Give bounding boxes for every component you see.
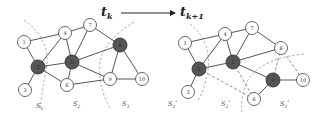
left-node-10: 10 — [136, 73, 149, 86]
svg-text:10: 10 — [300, 77, 306, 83]
time-label-tk1: tk+1 — [180, 4, 204, 21]
svg-text:9: 9 — [271, 77, 274, 83]
left-node-4: 4 — [59, 27, 72, 40]
set-label-s1: S1 — [36, 102, 43, 111]
svg-text:5: 5 — [70, 59, 73, 65]
svg-text:8: 8 — [118, 42, 121, 48]
right-node-10: 10 — [297, 74, 310, 87]
svg-text:1: 1 — [183, 40, 186, 46]
svg-text:6: 6 — [252, 96, 255, 102]
svg-text:7: 7 — [88, 22, 91, 28]
time-label-tk: tk — [101, 4, 113, 21]
right-node-5: 5 — [226, 55, 240, 69]
right-removed-edges — [199, 48, 303, 99]
set-label-s2-prime: S2' — [221, 99, 230, 109]
left-node-7: 7 — [84, 19, 97, 32]
svg-text:6: 6 — [65, 82, 68, 88]
left-node-2: 2 — [31, 60, 45, 74]
left-node-5: 5 — [65, 55, 79, 69]
svg-text:2: 2 — [36, 64, 39, 70]
left-node-1: 1 — [18, 36, 31, 49]
set-label-s3-prime: S3' — [280, 99, 289, 109]
right-node-8: 8 — [275, 42, 288, 55]
svg-text:8: 8 — [279, 45, 282, 51]
right-graph: 1 4 7 8 2 5 9 10 3 6 S1' S2' S3' — [168, 22, 310, 113]
right-node-4: 4 — [219, 28, 232, 41]
left-node-3: 3 — [19, 84, 32, 97]
svg-text:7: 7 — [250, 25, 253, 31]
right-node-3: 3 — [182, 86, 195, 99]
svg-text:1: 1 — [22, 39, 25, 45]
svg-text:3: 3 — [186, 89, 189, 95]
right-node-2: 2 — [192, 62, 206, 76]
svg-text:4: 4 — [223, 31, 226, 37]
right-node-9: 9 — [266, 73, 280, 87]
left-node-9: 9 — [104, 73, 117, 86]
set-label-s3: S3 — [122, 100, 129, 109]
time-transition: tk tk+1 — [101, 4, 204, 21]
left-node-8: 8 — [113, 38, 127, 52]
svg-text:2: 2 — [197, 66, 200, 72]
right-node-7: 7 — [246, 22, 259, 35]
left-graph: 1 4 7 8 2 5 3 6 9 10 S1 S2 S3 — [18, 19, 149, 111]
svg-text:10: 10 — [139, 76, 145, 82]
graph-partition-diagram: 1 4 7 8 2 5 3 6 9 10 S1 S2 S3 tk tk+1 — [0, 0, 328, 117]
svg-text:9: 9 — [108, 76, 111, 82]
set-label-s1-prime: S1' — [168, 99, 177, 109]
left-edges — [24, 25, 142, 90]
set-label-s2: S2 — [73, 100, 80, 109]
svg-text:5: 5 — [231, 59, 234, 65]
left-node-6: 6 — [61, 79, 74, 92]
right-node-1: 1 — [179, 37, 192, 50]
right-node-6: 6 — [248, 93, 261, 106]
svg-text:3: 3 — [23, 87, 26, 93]
svg-text:4: 4 — [63, 30, 66, 36]
